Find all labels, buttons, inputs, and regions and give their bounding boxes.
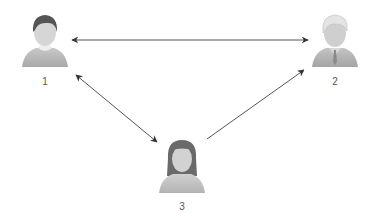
person-male-dark-hair-icon <box>20 12 70 68</box>
node-2-label: 2 <box>325 76 345 87</box>
node-1[interactable] <box>20 12 70 68</box>
node-2[interactable] <box>310 12 360 68</box>
node-1-label: 1 <box>35 76 55 87</box>
edge-1-3 <box>76 75 157 142</box>
diagram-canvas: 1 2 3 <box>0 0 377 216</box>
node-3-label: 3 <box>172 201 192 212</box>
edge-3-2 <box>207 70 304 139</box>
node-3[interactable] <box>157 138 207 194</box>
person-male-gray-hair-tie-icon <box>310 12 360 68</box>
person-female-long-hair-icon <box>157 138 207 194</box>
